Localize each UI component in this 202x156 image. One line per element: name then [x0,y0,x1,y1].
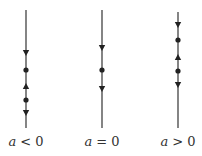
equilibrium-dot [23,97,28,102]
label-a-greater-than-0: a > 0 [160,134,195,149]
arrow-down-icon [23,110,29,116]
arrow-up-icon [175,54,181,60]
arrow-down-icon [99,86,105,92]
equilibrium-dot [175,68,180,73]
phase-line-diagram [0,0,202,156]
arrow-down-icon [99,45,105,51]
label-a-equals-0: a = 0 [84,134,119,149]
equilibrium-dot [23,67,28,72]
phase-line-1 [23,10,29,128]
arrow-down-icon [175,82,181,88]
phase-line-3 [175,12,181,128]
arrow-down-icon [175,22,181,28]
arrow-up-icon [23,83,29,89]
phase-line-2 [99,10,105,128]
arrow-down-icon [23,50,29,56]
equilibrium-dot [99,67,104,72]
equilibrium-dot [175,37,180,42]
label-a-less-than-0: a < 0 [8,134,43,149]
